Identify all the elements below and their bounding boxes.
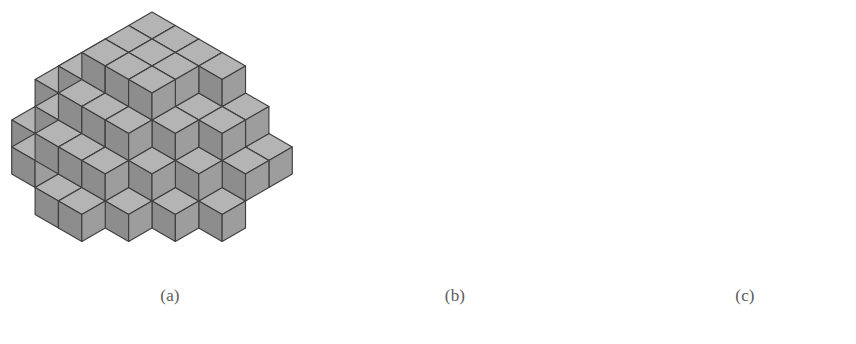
figure-root: (a) (b) (c) bbox=[0, 0, 856, 344]
caption-b: (b) bbox=[425, 286, 485, 306]
panel-a bbox=[0, 0, 300, 280]
caption-c: (c) bbox=[715, 286, 775, 306]
panel-b-canvas bbox=[330, 0, 550, 280]
panel-b bbox=[330, 0, 550, 280]
panel-a-canvas bbox=[0, 0, 300, 280]
panel-c bbox=[600, 0, 856, 280]
panel-a-cubes bbox=[12, 12, 293, 242]
panel-c-canvas bbox=[600, 0, 856, 280]
caption-a: (a) bbox=[140, 286, 200, 306]
